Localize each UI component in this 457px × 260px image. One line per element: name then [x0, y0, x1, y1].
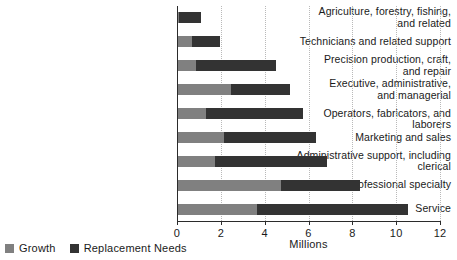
bar-segment-replacement[interactable]: [224, 132, 316, 143]
bar-segment-growth[interactable]: [178, 36, 192, 47]
bar-segment-replacement[interactable]: [215, 156, 327, 167]
bar-segment-replacement[interactable]: [281, 180, 360, 191]
bar-segment-replacement[interactable]: [179, 12, 201, 23]
bar-segment-replacement[interactable]: [257, 204, 408, 215]
bar-segment-growth[interactable]: [178, 156, 215, 167]
x-tick: [221, 221, 222, 225]
bar-segment-growth[interactable]: [178, 204, 257, 215]
legend-label-replacement-needs: Replacement Needs: [84, 242, 187, 254]
legend-swatch-growth-icon: [5, 244, 14, 253]
legend-label-growth: Growth: [19, 242, 56, 254]
x-tick: [396, 221, 397, 225]
bar-segment-growth[interactable]: [178, 108, 206, 119]
bar-segment-replacement[interactable]: [206, 108, 302, 119]
legend-item-replacement-needs[interactable]: Replacement Needs: [70, 242, 187, 254]
x-tick: [265, 221, 266, 225]
bar-segment-growth[interactable]: [178, 180, 281, 191]
gridline: [396, 6, 397, 221]
bar-segment-growth[interactable]: [178, 84, 231, 95]
x-tick: [309, 221, 310, 225]
legend-swatch-replacement-icon: [70, 244, 79, 253]
bar-segment-growth[interactable]: [178, 60, 196, 71]
bar-segment-replacement[interactable]: [231, 84, 290, 95]
legend-item-growth[interactable]: Growth: [5, 242, 56, 254]
bar-segment-replacement[interactable]: [192, 36, 219, 47]
bar-segment-replacement[interactable]: [196, 60, 276, 71]
bar-segment-growth[interactable]: [178, 132, 224, 143]
chart-legend: Growth Replacement Needs: [5, 242, 187, 254]
x-tick: [440, 221, 441, 225]
x-tick: [177, 221, 178, 225]
x-axis-title: Millions: [177, 238, 440, 250]
stacked-bar-chart: Agriculture, forestry, fishing, and rela…: [0, 0, 457, 260]
x-tick: [352, 221, 353, 225]
gridline: [440, 6, 441, 221]
plot-area: 024681012: [177, 6, 440, 221]
